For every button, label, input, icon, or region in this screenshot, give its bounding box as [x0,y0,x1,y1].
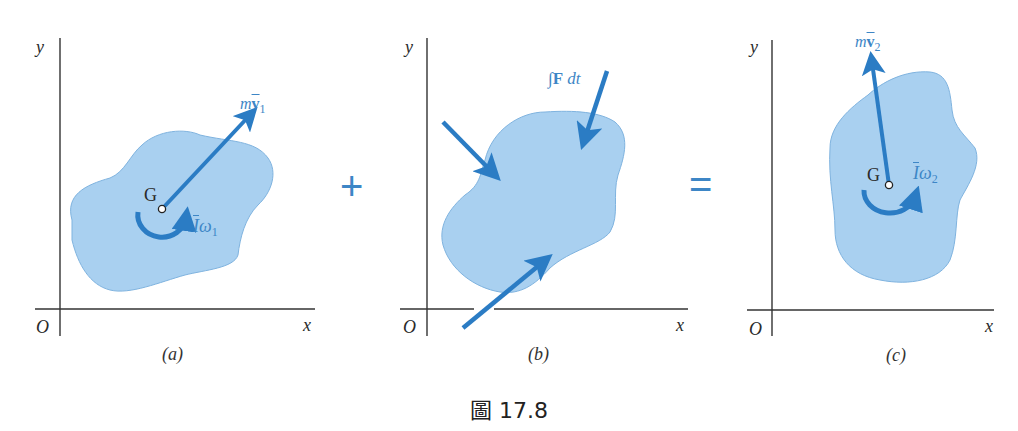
y-axis-label-c: y [750,38,758,56]
x-axis-label-a: x [303,316,311,334]
center-label-a: G [144,186,157,204]
rigid-body-b [442,111,625,292]
panel-b [400,38,688,336]
origin-label-c: O [749,320,762,338]
momentum-label-c: mv2 [855,34,881,53]
impulse-arrow-left [443,122,492,172]
origin-label-b: O [403,318,416,336]
panel-b-caption: (b) [528,344,549,365]
figure-canvas [0,0,1018,431]
center-of-mass-c [885,181,892,188]
x-axis-label-c: x [985,317,993,335]
y-axis-label-a: y [36,38,44,56]
origin-label-a: O [36,318,49,336]
momentum-label-a: mv1 [240,96,266,115]
impulse-label: ∫F dt [548,70,581,87]
figure-caption: 圖 17.8 [0,392,1018,424]
plus-operator: + [340,166,363,206]
angular-label-c: Iω2 [913,164,938,185]
center-label-c: G [867,166,880,184]
panel-c [747,40,994,336]
rigid-body-a [71,131,273,291]
x-axis-label-b: x [676,316,684,334]
panel-c-caption: (c) [886,345,906,366]
angular-label-a: Iω1 [193,217,218,238]
center-of-mass-a [158,205,165,212]
panel-a [35,38,315,336]
equals-operator: = [689,164,712,204]
y-axis-label-b: y [405,38,413,56]
rigid-body-c [830,72,977,282]
panel-a-caption: (a) [162,344,183,365]
